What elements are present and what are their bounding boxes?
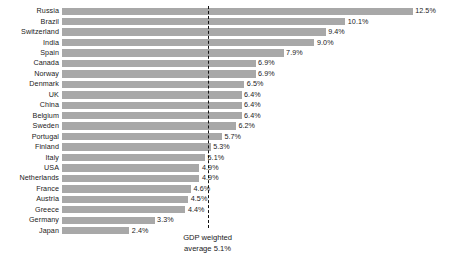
value-label: 9.0% [314, 39, 333, 47]
bar-track: 4.5% [62, 194, 456, 204]
value-label: 4.4% [185, 206, 204, 214]
bar-track: 4.6% [62, 184, 456, 194]
category-label: Switzerland [0, 28, 62, 36]
bar-row: France4.6% [0, 184, 456, 194]
bar-track: 6.4% [62, 100, 456, 110]
category-label: Japan [0, 227, 62, 235]
bar-track: 5.1% [62, 152, 456, 162]
bar-row: Portugal5.7% [0, 131, 456, 141]
category-label: India [0, 39, 62, 47]
bar-track: 9.4% [62, 27, 456, 37]
category-label: Belgium [0, 112, 62, 120]
value-label: 4.9% [199, 164, 218, 172]
bar-row: Switzerland9.4% [0, 27, 456, 37]
bar [62, 8, 413, 15]
category-label: Austria [0, 195, 62, 203]
bar-track: 4.9% [62, 173, 456, 183]
value-label: 6.2% [236, 122, 255, 130]
category-label: Spain [0, 49, 62, 57]
bar-track: 12.5% [62, 6, 456, 16]
bar [62, 70, 256, 77]
category-label: China [0, 101, 62, 109]
bar [62, 185, 191, 192]
bar-row: UK6.4% [0, 90, 456, 100]
bar-track: 4.4% [62, 205, 456, 215]
value-label: 6.9% [256, 70, 275, 78]
category-label: France [0, 185, 62, 193]
bar [62, 133, 222, 140]
bar-track: 9.0% [62, 37, 456, 47]
bar-row: Belgium6.4% [0, 111, 456, 121]
gdp-weighted-bar-chart: Russia12.5%Brazil10.1%Switzerland9.4%Ind… [0, 0, 456, 266]
bar-row: Canada6.9% [0, 58, 456, 68]
category-label: Russia [0, 7, 62, 15]
annotation-line-1: GDP weighted [162, 233, 254, 244]
bar-track: 3.3% [62, 215, 456, 225]
value-label: 4.5% [188, 195, 207, 203]
bar [62, 60, 256, 67]
bar-row: Spain7.9% [0, 48, 456, 58]
value-label: 3.3% [155, 216, 174, 224]
bar-track: 5.7% [62, 131, 456, 141]
bar-track: 5.3% [62, 142, 456, 152]
value-label: 6.4% [242, 101, 261, 109]
bar-row: Norway6.9% [0, 69, 456, 79]
bar [62, 206, 185, 213]
bar [62, 143, 211, 150]
value-label: 9.4% [326, 28, 345, 36]
value-label: 7.9% [284, 49, 303, 57]
bar [62, 18, 345, 25]
bar-row: Austria4.5% [0, 194, 456, 204]
bar [62, 175, 199, 182]
bar-row: India9.0% [0, 37, 456, 47]
bar [62, 164, 199, 171]
category-label: Sweden [0, 122, 62, 130]
bar [62, 122, 236, 129]
value-label: 6.9% [256, 59, 275, 67]
value-label: 10.1% [345, 18, 368, 26]
bar-track: 6.5% [62, 79, 456, 89]
bar-track: 6.9% [62, 69, 456, 79]
category-label: Denmark [0, 80, 62, 88]
reference-line-average [208, 6, 209, 228]
bar [62, 102, 242, 109]
bar-track: 2.4% [62, 225, 456, 235]
bar-track: 6.4% [62, 111, 456, 121]
value-label: 5.7% [222, 133, 241, 141]
bar-track: 4.9% [62, 163, 456, 173]
bar [62, 91, 242, 98]
value-label: 2.4% [129, 227, 148, 235]
category-label: Finland [0, 143, 62, 151]
bar-row: USA4.9% [0, 163, 456, 173]
bar-row: Finland5.3% [0, 142, 456, 152]
bar-track: 6.2% [62, 121, 456, 131]
bar-track: 6.4% [62, 90, 456, 100]
category-label: USA [0, 164, 62, 172]
value-label: 5.3% [211, 143, 230, 151]
bar-row: China6.4% [0, 100, 456, 110]
value-label: 6.4% [242, 91, 261, 99]
bar [62, 49, 284, 56]
bar-track: 7.9% [62, 48, 456, 58]
category-label: Brazil [0, 18, 62, 26]
category-label: UK [0, 91, 62, 99]
bar [62, 217, 155, 224]
bar-track: 10.1% [62, 16, 456, 26]
value-label: 6.4% [242, 112, 261, 120]
bar-track: 6.9% [62, 58, 456, 68]
bar-row: Greece4.4% [0, 205, 456, 215]
category-label: Portugal [0, 133, 62, 141]
plot-area: Russia12.5%Brazil10.1%Switzerland9.4%Ind… [0, 0, 456, 266]
category-label: Netherlands [0, 174, 62, 182]
value-label: 6.5% [244, 80, 263, 88]
value-label: 12.5% [413, 7, 436, 15]
bar [62, 196, 188, 203]
bar [62, 227, 129, 234]
bar [62, 39, 314, 46]
bar [62, 28, 326, 35]
annotation-line-2: average 5.1% [162, 244, 254, 255]
category-label: Italy [0, 154, 62, 162]
category-label: Greece [0, 206, 62, 214]
value-label: 4.9% [199, 174, 218, 182]
category-label: Norway [0, 70, 62, 78]
